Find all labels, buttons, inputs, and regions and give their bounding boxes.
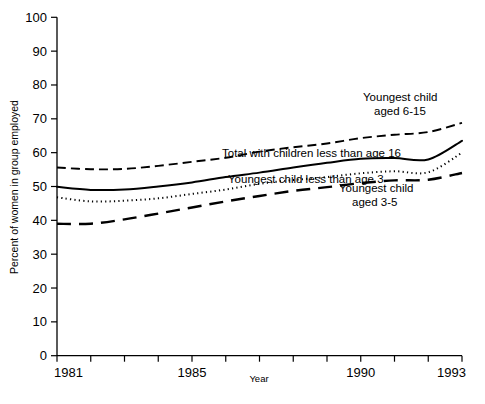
y-axis-tick-labels: 0102030405060708090100 — [25, 10, 47, 363]
y-axis-title: Percent of women in group employed — [8, 100, 20, 274]
series-label: Total with children less than age 16 — [222, 147, 401, 159]
x-tick-label: 1990 — [346, 365, 375, 380]
series-annotations: Youngest childaged 6-15Total with childr… — [222, 91, 437, 208]
y-tick-label: 20 — [33, 281, 47, 296]
y-tick-label: 80 — [33, 77, 47, 92]
series-label: aged 3-5 — [352, 196, 397, 208]
series-label: Youngest child — [363, 91, 437, 103]
y-tick-label: 100 — [25, 10, 47, 25]
y-tick-label: 50 — [33, 179, 47, 194]
y-tick-label: 70 — [33, 111, 47, 126]
line-chart: 0102030405060708090100 1981198519901993 … — [0, 0, 485, 404]
y-tick-label: 40 — [33, 213, 47, 228]
x-axis-ticks — [57, 356, 462, 362]
chart-container: 0102030405060708090100 1981198519901993 … — [0, 0, 485, 404]
y-tick-label: 60 — [33, 145, 47, 160]
y-tick-label: 90 — [33, 44, 47, 59]
x-tick-label: 1985 — [178, 365, 207, 380]
x-tick-label: 1981 — [54, 365, 83, 380]
series-label: Youngest child — [339, 182, 413, 194]
y-tick-label: 30 — [33, 247, 47, 262]
x-axis-title: Year — [249, 373, 268, 384]
series-label: aged 6-15 — [374, 105, 426, 117]
y-tick-label: 0 — [40, 348, 47, 363]
y-tick-label: 10 — [33, 314, 47, 329]
x-tick-label: 1993 — [437, 365, 466, 380]
